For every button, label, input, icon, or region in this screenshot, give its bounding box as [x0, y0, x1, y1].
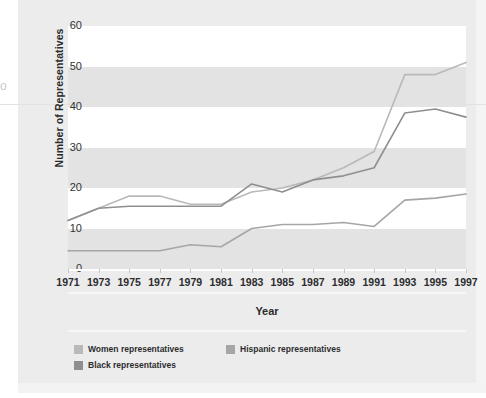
legend-label-women: Women representatives	[88, 344, 184, 354]
divider-rule-top	[68, 292, 466, 294]
x-tick-label: 1997	[446, 276, 486, 288]
legend-swatch-black-icon	[74, 361, 83, 370]
y-tick-label: 10	[52, 223, 82, 234]
y-tick-label: 40	[52, 101, 82, 112]
x-tick-mark	[374, 269, 375, 273]
chart-figure: Number of Representatives 0102030405060 …	[18, 0, 486, 393]
legend-swatch-women-icon	[74, 345, 83, 354]
x-tick-mark	[221, 269, 222, 273]
x-tick-mark	[405, 269, 406, 273]
legend-label-hispanic: Hispanic representatives	[240, 344, 341, 354]
y-tick-label: 30	[52, 142, 82, 153]
x-tick-mark	[344, 269, 345, 273]
x-tick-mark	[252, 269, 253, 273]
x-tick-mark	[435, 269, 436, 273]
x-tick-mark	[313, 269, 314, 273]
plot-area	[68, 26, 466, 269]
legend-swatch-hispanic-icon	[226, 345, 235, 354]
scan-artifact-glyph: o	[0, 78, 10, 94]
x-tick-mark	[68, 269, 69, 273]
legend-item-black[interactable]: Black representatives	[74, 360, 176, 370]
series-line	[68, 194, 466, 251]
x-tick-mark	[129, 269, 130, 273]
series-line	[68, 62, 466, 220]
x-tick-mark	[282, 269, 283, 273]
legend-item-hispanic[interactable]: Hispanic representatives	[226, 344, 341, 354]
y-tick-label: 60	[52, 20, 82, 31]
chart-legend: Women representatives Hispanic represent…	[74, 344, 464, 382]
legend-item-women[interactable]: Women representatives	[74, 344, 184, 354]
x-tick-mark	[99, 269, 100, 273]
x-axis-line	[68, 269, 466, 271]
x-tick-mark	[160, 269, 161, 273]
y-tick-label: 20	[52, 182, 82, 193]
x-axis-title: Year	[68, 305, 466, 317]
series-lines	[68, 26, 466, 269]
x-tick-mark	[466, 269, 467, 273]
legend-label-black: Black representatives	[88, 360, 176, 370]
series-line	[68, 109, 466, 220]
x-tick-mark	[190, 269, 191, 273]
divider-rule-bottom	[68, 330, 466, 332]
y-axis-title: Number of Representatives	[53, 13, 65, 183]
y-tick-label: 50	[52, 61, 82, 72]
